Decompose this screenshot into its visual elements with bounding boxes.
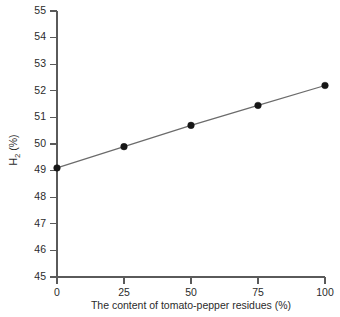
y-tick-label: 51	[34, 110, 46, 122]
x-tick-label: 75	[252, 286, 264, 298]
y-axis-title-base: H	[7, 158, 19, 166]
y-tick-label: 54	[34, 30, 46, 42]
data-point	[121, 143, 128, 150]
y-tick-label: 50	[34, 137, 46, 149]
x-tick-label: 50	[185, 286, 197, 298]
chart-background	[0, 0, 340, 317]
data-point	[54, 165, 61, 172]
y-tick-label: 48	[34, 190, 46, 202]
data-point	[188, 122, 195, 129]
data-point	[255, 102, 262, 109]
y-tick-label: 53	[34, 57, 46, 69]
x-tick-label: 25	[118, 286, 130, 298]
x-tick-label: 100	[316, 286, 334, 298]
y-tick-label: 55	[34, 4, 46, 16]
y-tick-label: 46	[34, 243, 46, 255]
y-tick-label: 45	[34, 270, 46, 282]
data-point	[322, 82, 329, 89]
x-axis-title: The content of tomato-pepper residues (%…	[91, 299, 291, 311]
y-tick-label: 52	[34, 84, 46, 96]
y-tick-label: 49	[34, 163, 46, 175]
y-axis-title-unit: (%)	[7, 134, 19, 153]
y-tick-label: 47	[34, 217, 46, 229]
x-tick-label: 0	[54, 286, 60, 298]
chart-figure: 4546474849505152535455 H2 (%) 0255075100…	[0, 0, 340, 317]
